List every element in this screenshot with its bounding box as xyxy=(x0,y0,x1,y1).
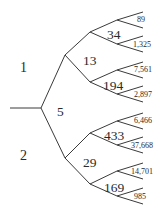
edge-upper-l1 xyxy=(41,55,65,108)
leaf-label: 985 xyxy=(134,192,146,201)
label-upper-branch: 1 xyxy=(20,60,27,75)
leaf-label: 37,668 xyxy=(131,141,153,150)
leaf-label: 1,325 xyxy=(133,40,151,49)
label-lower-branch: 2 xyxy=(20,148,27,163)
label-node-34: 34 xyxy=(107,27,121,42)
label-root-node: 5 xyxy=(57,104,64,119)
leaf-label: 89 xyxy=(137,15,145,24)
leaf-label: 7,561 xyxy=(134,65,152,74)
label-node-169: 169 xyxy=(104,180,125,195)
leaf-label: 14,701 xyxy=(131,167,153,176)
label-node-13: 13 xyxy=(83,53,97,68)
leaf-label: 2,897 xyxy=(134,90,152,99)
label-node-29: 29 xyxy=(83,155,97,170)
label-node-433: 433 xyxy=(104,128,125,143)
tree-diagram: 1 2 5 13 34 194 29 433 169 89 1,325 7,56… xyxy=(0,0,162,216)
edge xyxy=(65,32,90,55)
label-node-194: 194 xyxy=(103,78,124,93)
leaf-label: 6,466 xyxy=(134,116,152,125)
